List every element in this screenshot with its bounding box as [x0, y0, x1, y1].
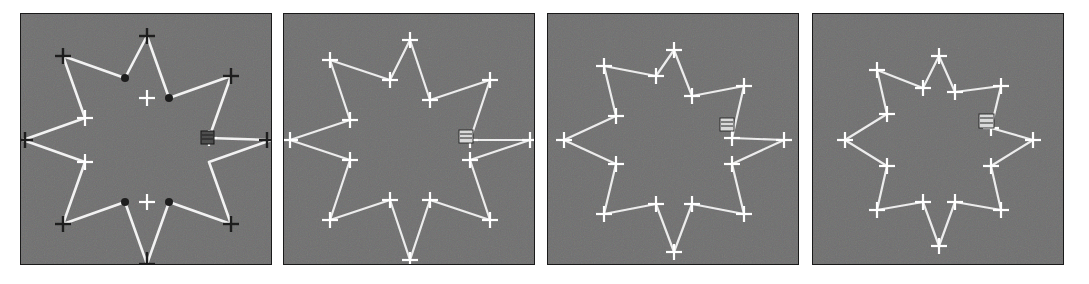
panel-3-markers	[556, 42, 792, 260]
panel-2[interactable]	[283, 13, 535, 265]
panel-2-markers	[284, 32, 534, 264]
panel-3-selection-handle[interactable]	[720, 118, 734, 131]
panel-4-contour	[845, 56, 1033, 246]
panel-1-selection-handle[interactable]	[201, 131, 214, 144]
caption-row	[0, 266, 1089, 284]
panel-3[interactable]	[547, 13, 799, 265]
panel-4[interactable]	[812, 13, 1064, 265]
panel-4-plot	[813, 14, 1063, 264]
panel-4-selection-handle[interactable]	[979, 114, 994, 128]
panel-2-selection-handle[interactable]	[459, 130, 473, 143]
panel-2-plot	[284, 14, 534, 264]
panel-2-contour	[290, 40, 530, 260]
panel-3-contour	[564, 50, 784, 252]
panel-1-outer-markers	[21, 28, 271, 264]
panel-1-plot	[21, 14, 271, 264]
figure-panel-sequence	[0, 0, 1089, 284]
panel-1[interactable]	[20, 13, 272, 265]
panel-1-contour	[23, 36, 271, 264]
panel-1-inner-markers	[77, 74, 217, 210]
panel-4-markers	[837, 48, 1041, 254]
panel-3-plot	[548, 14, 798, 264]
